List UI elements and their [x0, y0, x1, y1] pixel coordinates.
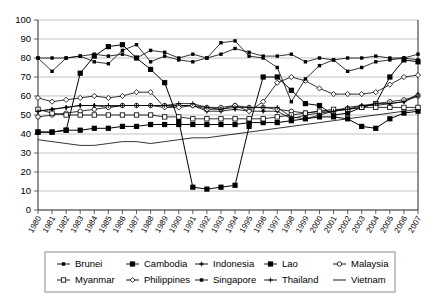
singapore-marker-icon [200, 278, 203, 281]
legend-label: Philippines [144, 274, 190, 285]
legend-label: Cambodia [144, 258, 188, 269]
y-tick-label: 70 [20, 71, 31, 82]
myanmar-marker-icon [61, 278, 65, 282]
legend-label: Thailand [282, 274, 318, 285]
legend-label: Myanmar [75, 274, 115, 285]
chart-container: 0102030405060708090100 19801981198219831… [0, 0, 435, 302]
lao-marker-icon [268, 261, 273, 266]
legend-label: Singapore [213, 274, 256, 285]
y-tick-label: 0 [26, 204, 31, 215]
y-tick-label: 60 [20, 90, 31, 101]
legend-label: Indonesia [213, 258, 255, 269]
y-tick-label: 10 [20, 185, 31, 196]
cambodia-marker-icon [130, 261, 135, 266]
y-tick-label: 50 [20, 109, 31, 120]
legend-label: Lao [282, 258, 298, 269]
brunei-marker-icon [62, 262, 65, 265]
legend-label: Brunei [75, 258, 102, 269]
y-tick-label: 90 [20, 33, 31, 44]
y-tick-label: 30 [20, 147, 31, 158]
legend-label: Malaysia [351, 258, 389, 269]
y-tick-label: 80 [20, 52, 31, 63]
y-tick-label: 100 [15, 14, 31, 25]
y-tick-label: 20 [20, 166, 31, 177]
y-tick-label: 40 [20, 128, 31, 139]
line-chart: 0102030405060708090100 19801981198219831… [0, 0, 435, 302]
legend-label: Vietnam [351, 274, 386, 285]
malaysia-marker-icon [337, 262, 341, 266]
